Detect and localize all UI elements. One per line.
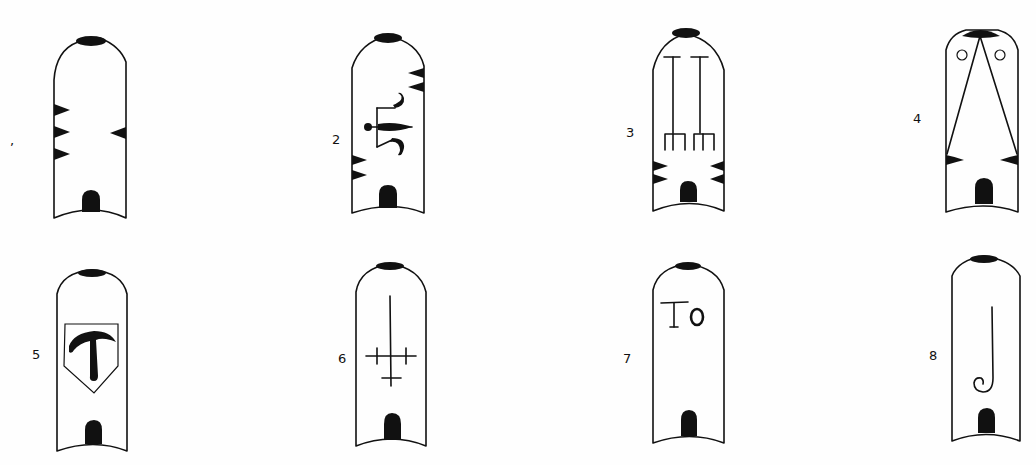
bullet-outline-8 [0,0,1036,465]
